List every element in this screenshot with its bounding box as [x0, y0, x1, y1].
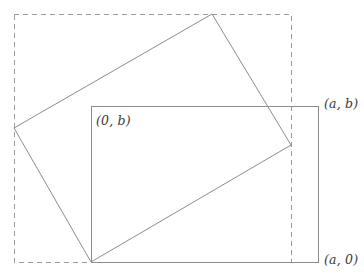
label-corner-bottom-right: (a, 0)	[324, 254, 358, 267]
label-corner-top-right: (a, b)	[324, 98, 358, 111]
label-origin-top: (0, b)	[96, 115, 131, 128]
figure-canvas	[0, 0, 364, 278]
bounding-box-dashed	[14, 14, 291, 262]
geometry-figure: (0, b) (a, b) (a, 0)	[0, 0, 364, 278]
axis-aligned-rectangle	[91, 106, 318, 262]
rotated-rectangle	[14, 14, 291, 262]
